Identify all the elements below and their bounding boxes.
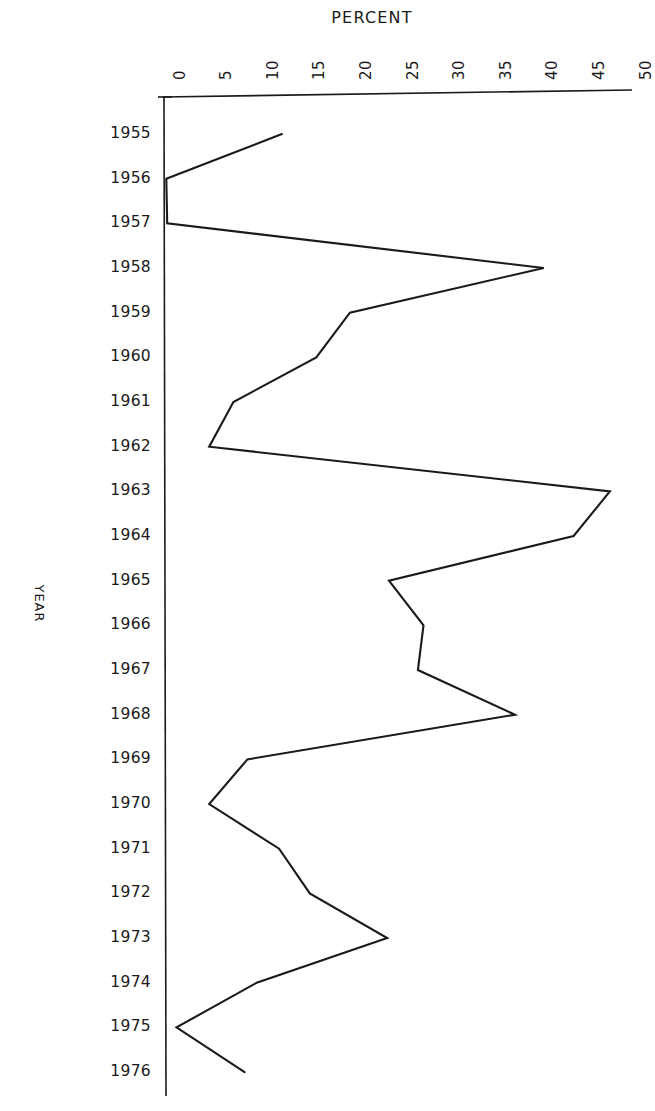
left-axis-line (164, 97, 166, 1096)
top-axis-line (163, 90, 632, 97)
data-series-line (166, 134, 610, 1072)
axis-lines (158, 90, 632, 1096)
